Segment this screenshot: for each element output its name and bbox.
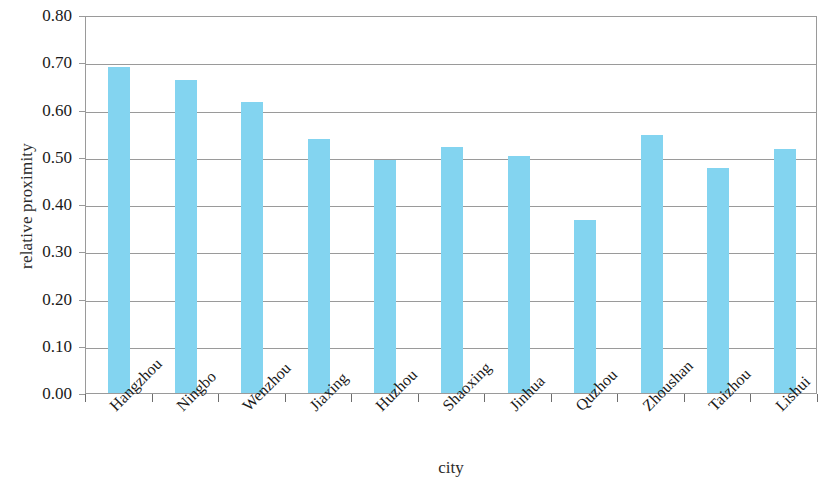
y-axis-tick-label: 0.40	[0, 196, 72, 213]
y-axis-tick-label: 0.30	[0, 243, 72, 260]
y-axis-tick-label: 0.20	[0, 291, 72, 308]
x-axis-tick-mark	[285, 394, 286, 402]
y-axis-tick-mark	[79, 111, 86, 112]
x-axis-tick-mark	[484, 394, 485, 402]
bar	[641, 135, 663, 393]
x-axis-tick-mark	[817, 394, 818, 402]
y-axis-tick-mark	[79, 158, 86, 159]
x-axis-tick-mark	[85, 394, 86, 402]
x-axis-tick-mark	[750, 394, 751, 402]
bar	[241, 102, 263, 393]
y-axis-tick-label: 0.00	[0, 385, 72, 402]
bar	[374, 160, 396, 393]
y-axis-tick-label: 0.80	[0, 7, 72, 24]
y-axis-tick-mark	[79, 63, 86, 64]
bar	[108, 67, 130, 393]
bar	[441, 147, 463, 393]
x-axis-tick-mark	[351, 394, 352, 402]
x-axis-tick-mark	[218, 394, 219, 402]
x-axis-title: city	[0, 458, 819, 478]
y-axis-tick-mark	[79, 205, 86, 206]
bar	[308, 139, 330, 393]
x-axis-tick-mark	[684, 394, 685, 402]
y-axis-tick-label: 0.60	[0, 102, 72, 119]
y-axis-tick-label: 0.70	[0, 54, 72, 71]
y-axis-tick-mark	[79, 300, 86, 301]
y-axis-tick-label: 0.10	[0, 338, 72, 355]
y-axis-tick-mark	[79, 347, 86, 348]
bar-chart: relative proximity 0.800.700.600.500.400…	[0, 0, 819, 484]
bar	[175, 80, 197, 393]
x-axis-tick-mark	[152, 394, 153, 402]
plot-area	[85, 16, 817, 394]
x-axis-tick-mark	[551, 394, 552, 402]
y-axis-tick-mark	[79, 16, 86, 17]
y-axis-tick-label: 0.50	[0, 149, 72, 166]
bar	[574, 220, 596, 393]
bar	[508, 156, 530, 393]
bar	[707, 168, 729, 393]
x-axis-tick-mark	[418, 394, 419, 402]
y-axis-tick-mark	[79, 252, 86, 253]
gridline	[86, 64, 816, 65]
bar	[774, 149, 796, 393]
x-axis-tick-mark	[617, 394, 618, 402]
